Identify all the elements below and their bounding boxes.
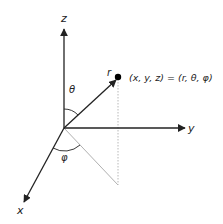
r-label: r [107,67,112,78]
phi-arc [53,145,80,151]
z-axis-label: z [60,12,67,25]
xy-projection-line [64,128,118,185]
theta-arc [64,109,78,115]
point-equation: (x, y, z) = (r, θ, φ) [129,72,213,83]
point-marker [115,74,121,80]
y-axis-label: y [187,122,195,135]
phi-label: φ [61,152,68,163]
spherical-coordinates-diagram: z y x r (x, y, z) = (r, θ, φ) θ φ [0,0,223,224]
theta-label: θ [69,84,75,95]
x-axis [24,128,64,202]
x-axis-label: x [16,204,24,217]
